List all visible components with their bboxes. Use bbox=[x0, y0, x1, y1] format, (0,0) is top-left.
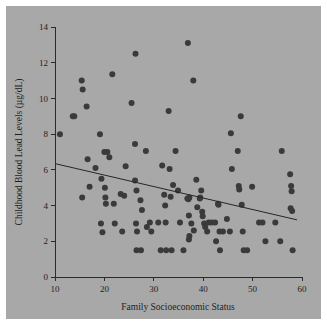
data-point bbox=[213, 238, 219, 244]
x-tick-label: 30 bbox=[149, 284, 159, 294]
x-axis-ticks: 102030405060 bbox=[51, 277, 308, 294]
y-tick-label: 0 bbox=[44, 272, 49, 282]
data-point bbox=[163, 247, 169, 253]
data-point bbox=[79, 195, 85, 201]
y-tick-label: 12 bbox=[39, 58, 48, 68]
data-point bbox=[155, 220, 161, 226]
data-point bbox=[97, 131, 103, 137]
data-point bbox=[147, 220, 153, 226]
data-point bbox=[93, 165, 99, 171]
data-point bbox=[138, 247, 144, 253]
x-tick-label: 50 bbox=[248, 284, 258, 294]
data-point bbox=[163, 220, 169, 226]
data-point bbox=[158, 247, 164, 253]
data-point bbox=[262, 238, 268, 244]
data-point bbox=[133, 51, 139, 57]
data-point bbox=[167, 166, 173, 172]
data-point bbox=[162, 203, 168, 209]
regression-line bbox=[55, 164, 297, 220]
data-point bbox=[134, 228, 140, 234]
data-point bbox=[123, 163, 129, 169]
data-point bbox=[132, 141, 138, 147]
data-point bbox=[200, 213, 206, 219]
y-tick-label: 8 bbox=[44, 129, 49, 139]
y-tick-label: 6 bbox=[44, 165, 49, 175]
data-point bbox=[235, 148, 241, 154]
data-point bbox=[290, 247, 296, 253]
data-point bbox=[198, 187, 204, 193]
data-point bbox=[121, 193, 127, 199]
data-point bbox=[259, 220, 265, 226]
data-point bbox=[220, 228, 226, 234]
data-point bbox=[185, 40, 191, 46]
data-point bbox=[98, 220, 104, 226]
data-point bbox=[277, 238, 283, 244]
data-point bbox=[99, 229, 105, 235]
data-point bbox=[272, 220, 278, 226]
data-point bbox=[289, 188, 295, 194]
data-point bbox=[161, 192, 167, 198]
data-point bbox=[177, 220, 183, 226]
data-point bbox=[143, 148, 149, 154]
data-point bbox=[190, 78, 196, 84]
data-point bbox=[212, 220, 218, 226]
data-point bbox=[102, 185, 108, 191]
x-tick-label: 10 bbox=[51, 284, 61, 294]
data-point bbox=[287, 171, 293, 177]
data-point bbox=[173, 148, 179, 154]
data-point bbox=[159, 162, 165, 168]
data-point bbox=[79, 78, 85, 84]
data-point bbox=[169, 247, 175, 253]
data-point bbox=[185, 196, 191, 202]
data-point bbox=[238, 113, 244, 119]
data-point bbox=[288, 183, 294, 189]
data-point bbox=[180, 247, 186, 253]
y-axis-title: Childhood Blood Lead Levels (µg/dL) bbox=[14, 79, 25, 226]
data-point bbox=[186, 237, 192, 243]
data-point bbox=[112, 220, 118, 226]
y-tick-label: 2 bbox=[44, 236, 49, 246]
data-point bbox=[204, 228, 210, 234]
data-point bbox=[193, 177, 199, 183]
data-point bbox=[170, 182, 176, 188]
data-point bbox=[191, 228, 197, 234]
y-axis-ticks: 02468101214 bbox=[39, 22, 55, 282]
data-point bbox=[188, 220, 194, 226]
data-points-group bbox=[57, 40, 296, 253]
data-point bbox=[119, 228, 125, 234]
data-point bbox=[166, 108, 172, 114]
data-point bbox=[148, 228, 154, 234]
data-point bbox=[137, 197, 143, 203]
data-point bbox=[80, 87, 86, 93]
data-point bbox=[228, 130, 234, 136]
x-tick-label: 20 bbox=[100, 284, 110, 294]
data-point bbox=[244, 247, 250, 253]
data-point bbox=[227, 228, 233, 234]
data-point bbox=[229, 166, 235, 172]
data-point bbox=[84, 103, 90, 109]
y-tick-label: 10 bbox=[39, 94, 49, 104]
data-point bbox=[249, 184, 255, 190]
data-point bbox=[236, 187, 242, 193]
data-point bbox=[279, 148, 285, 154]
data-point bbox=[71, 113, 77, 119]
y-tick-label: 14 bbox=[39, 22, 49, 32]
data-point bbox=[186, 212, 192, 218]
data-point bbox=[194, 204, 200, 210]
data-point bbox=[106, 154, 112, 160]
data-point bbox=[133, 220, 139, 226]
scatter-chart: 02468101214 102030405060 Family Socioeco… bbox=[0, 0, 327, 333]
data-point bbox=[87, 184, 93, 190]
y-tick-label: 4 bbox=[44, 201, 49, 211]
data-point bbox=[103, 201, 109, 207]
data-point bbox=[104, 149, 110, 155]
x-tick-label: 60 bbox=[298, 284, 308, 294]
data-point bbox=[109, 71, 115, 77]
x-tick-label: 40 bbox=[199, 284, 209, 294]
data-point bbox=[139, 207, 145, 213]
data-point bbox=[57, 131, 63, 137]
data-point bbox=[111, 201, 117, 207]
x-axis-title: Family Socioeconomic Status bbox=[121, 302, 235, 312]
data-point bbox=[98, 176, 104, 182]
data-point bbox=[85, 156, 91, 162]
